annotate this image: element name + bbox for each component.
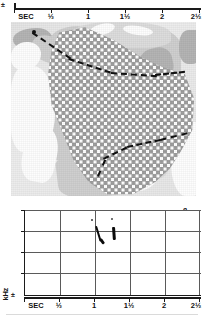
sonogram-trace-note-2	[112, 227, 115, 240]
gridline-y-4	[25, 252, 201, 253]
sonogram-speck-1	[91, 219, 93, 221]
gridline-x-2half	[199, 210, 200, 295]
gridline-x-half	[60, 210, 61, 295]
axis-tick-label-half: ½	[48, 12, 54, 21]
axis-tick	[14, 8, 15, 13]
sonogram-plot-area	[24, 210, 201, 296]
x-tick-label-2: 2	[162, 301, 166, 310]
axis-tick-label-2half: 2½	[191, 12, 201, 21]
axis-tick-label-sec: SEC	[18, 12, 33, 21]
x-tick-label-sec: SEC	[28, 301, 43, 310]
time-axis-top: ± SEC ½ 1 1½ 2 2½	[0, 0, 203, 22]
corner-mark-bottom-icon: ±	[11, 291, 15, 298]
sonogram-trace-note-1-tail	[99, 238, 105, 244]
x-tick-label-2half: 2½	[191, 301, 201, 310]
axis-tick-label-1: 1	[86, 12, 90, 21]
x-tick-label-1: 1	[92, 301, 96, 310]
gridline-x-1	[95, 210, 96, 295]
paper-texture	[11, 22, 196, 196]
axis-rule-bottom	[24, 297, 201, 299]
axis-tick-label-2: 2	[160, 12, 164, 21]
axis-tick-label-1half: 1½	[120, 12, 130, 21]
footer-divider	[6, 314, 198, 315]
y-tick-6	[21, 231, 25, 232]
axis-tick-bottom	[24, 297, 25, 302]
sonogram-speck-2	[111, 218, 113, 220]
y-tick-2	[21, 273, 25, 274]
y-tick-8	[21, 210, 25, 211]
north-america-range-map	[11, 22, 196, 196]
axis-rule	[14, 8, 201, 10]
gridline-x-2	[165, 210, 166, 295]
gridline-x-1half	[130, 210, 131, 295]
sonogram-chart: 8 6 4 2 kHz ±	[0, 205, 203, 322]
y-tick-4	[21, 252, 25, 253]
corner-mark-icon: ±	[1, 1, 5, 8]
gridline-y-2	[25, 273, 201, 274]
x-tick-label-half: ½	[56, 301, 62, 310]
x-tick-label-1half: 1½	[124, 301, 134, 310]
gridline-y-8	[25, 210, 201, 211]
time-axis-bottom: ± SEC ½ 1 1½ 2 2½	[0, 297, 203, 319]
